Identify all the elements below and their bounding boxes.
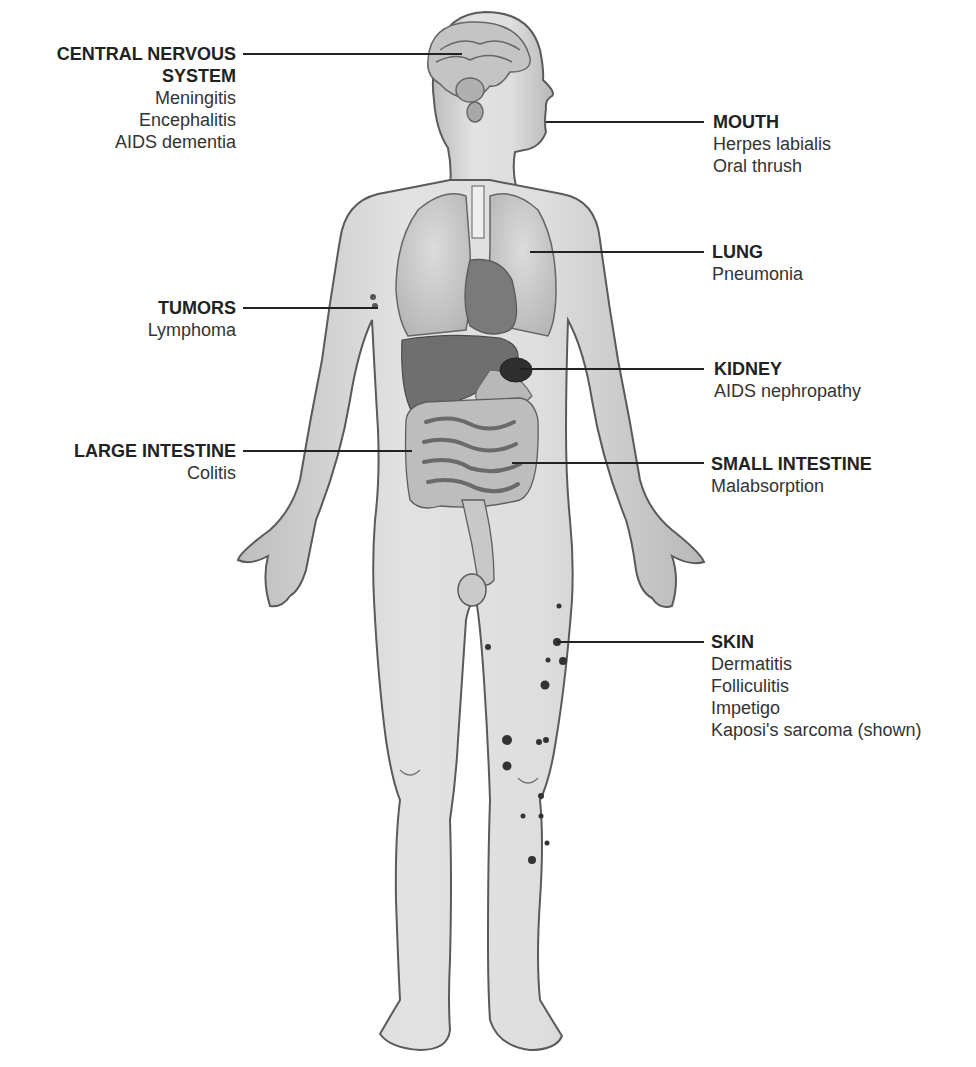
label-item: Encephalitis bbox=[57, 109, 236, 131]
label-large-intestine: LARGE INTESTINE Colitis bbox=[74, 440, 236, 484]
label-title: SYSTEM bbox=[57, 65, 236, 87]
label-item: Lymphoma bbox=[148, 319, 236, 341]
label-item: Colitis bbox=[74, 462, 236, 484]
label-kidney: KIDNEY AIDS nephropathy bbox=[714, 358, 861, 402]
label-skin: SKIN Dermatitis Folliculitis Impetigo Ka… bbox=[711, 631, 922, 741]
label-item: AIDS dementia bbox=[57, 131, 236, 153]
label-small-intestine: SMALL INTESTINE Malabsorption bbox=[711, 453, 872, 497]
label-title: TUMORS bbox=[148, 297, 236, 319]
label-item: Meningitis bbox=[57, 87, 236, 109]
label-central-nervous-system: CENTRAL NERVOUS SYSTEM Meningitis Enceph… bbox=[57, 43, 236, 153]
label-title: MOUTH bbox=[713, 111, 831, 133]
large-intestine bbox=[406, 398, 539, 508]
label-title: CENTRAL NERVOUS bbox=[57, 43, 236, 65]
genital-region bbox=[458, 574, 486, 606]
label-item: Impetigo bbox=[711, 697, 922, 719]
label-item: Folliculitis bbox=[711, 675, 922, 697]
label-item: AIDS nephropathy bbox=[714, 380, 861, 402]
label-title: LARGE INTESTINE bbox=[74, 440, 236, 462]
label-title: LUNG bbox=[712, 241, 803, 263]
label-item: Herpes labialis bbox=[713, 133, 831, 155]
label-item: Malabsorption bbox=[711, 475, 872, 497]
label-item: Dermatitis bbox=[711, 653, 922, 675]
label-tumors: TUMORS Lymphoma bbox=[148, 297, 236, 341]
label-item: Kaposi's sarcoma (shown) bbox=[711, 719, 922, 741]
label-mouth: MOUTH Herpes labialis Oral thrush bbox=[713, 111, 831, 177]
trachea bbox=[472, 186, 484, 238]
label-title: SKIN bbox=[711, 631, 922, 653]
label-item: Pneumonia bbox=[712, 263, 803, 285]
label-lung: LUNG Pneumonia bbox=[712, 241, 803, 285]
label-item: Oral thrush bbox=[713, 155, 831, 177]
label-title: KIDNEY bbox=[714, 358, 861, 380]
label-title: SMALL INTESTINE bbox=[711, 453, 872, 475]
